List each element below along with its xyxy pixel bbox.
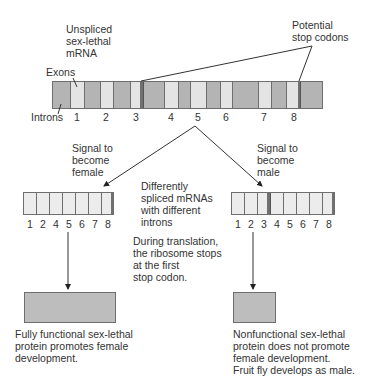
- stop-codon-pointer-line: [299, 46, 312, 81]
- stop-codon-pointer-line: [141, 46, 312, 81]
- connector-lines: [0, 0, 369, 380]
- introns-pointer-line: [58, 104, 61, 114]
- exons-pointer-line: [73, 78, 77, 87]
- male-splice-arrow: [195, 126, 262, 186]
- female-splice-arrow: [104, 126, 195, 186]
